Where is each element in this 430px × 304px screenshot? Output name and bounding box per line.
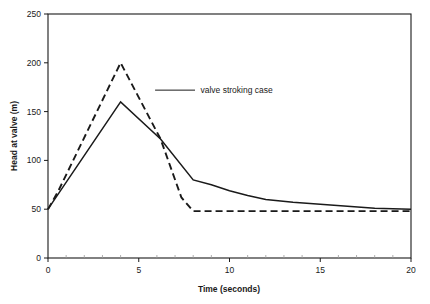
y-tick-label: 150 <box>27 107 41 117</box>
x-tick-label: 15 <box>316 265 326 275</box>
plot-area-border <box>48 14 411 258</box>
y-axis-title: Head at valve (m) <box>9 101 19 171</box>
x-axis-tick-labels: 05101520 <box>46 265 416 275</box>
x-tick-label: 10 <box>225 265 235 275</box>
chart-container: 050100150200250 05101520 valve stroking … <box>0 0 430 304</box>
x-axis-ticks <box>48 258 411 262</box>
y-tick-label: 0 <box>36 253 41 263</box>
plot-frame <box>48 14 411 258</box>
y-tick-label: 50 <box>32 204 42 214</box>
x-tick-label: 20 <box>406 265 416 275</box>
y-tick-label: 250 <box>27 9 41 19</box>
x-tick-label: 0 <box>46 265 51 275</box>
annotation-label: valve stroking case <box>200 85 273 95</box>
y-tick-label: 100 <box>27 155 41 165</box>
x-axis-title: Time (seconds) <box>198 284 260 294</box>
y-tick-label: 200 <box>27 58 41 68</box>
y-axis-ticks <box>44 14 48 258</box>
head-at-valve-line-chart: 050100150200250 05101520 valve stroking … <box>0 0 430 304</box>
y-axis-tick-labels: 050100150200250 <box>27 9 41 263</box>
x-tick-label: 5 <box>136 265 141 275</box>
